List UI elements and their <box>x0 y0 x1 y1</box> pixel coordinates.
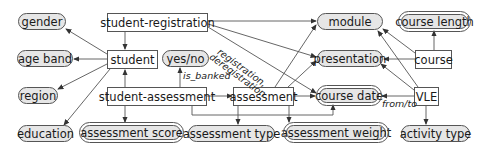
attribute-label: presentation <box>314 52 387 66</box>
attribute-label: course length <box>395 15 474 29</box>
entity-label: student-registration <box>100 16 214 30</box>
entity-label: VLE <box>416 90 438 104</box>
entity-label: student-assessment <box>99 90 215 104</box>
attribute-activity-type[interactable]: activity type <box>401 125 470 142</box>
edge-label-from-to: from/to <box>382 98 417 109</box>
attribute-label: age band <box>18 52 72 66</box>
entity-student[interactable]: student <box>107 50 158 69</box>
attribute-presentation[interactable]: presentation <box>317 50 383 67</box>
attribute-label: assessment type <box>183 127 281 141</box>
attribute-assessment-type[interactable]: assessment type <box>188 125 275 142</box>
attribute-label: activity type <box>400 127 472 141</box>
attribute-label: region <box>20 89 56 103</box>
attribute-label: education <box>17 127 74 141</box>
attribute-yes-no[interactable]: yes/no <box>162 50 209 67</box>
attribute-module[interactable]: module <box>317 13 383 30</box>
attribute-label: module <box>328 15 371 29</box>
attribute-age-band[interactable]: age band <box>17 50 73 67</box>
attribute-course-length[interactable]: course length <box>401 14 468 29</box>
attribute-region[interactable]: region <box>18 87 58 104</box>
entity-student-assessment[interactable]: student-assessment <box>107 87 207 106</box>
attribute-label: assessment weight <box>281 126 392 140</box>
entity-label: course <box>414 53 452 67</box>
attribute-assessment-score[interactable]: assessment score <box>82 125 181 140</box>
er-diagram: student-registration student student-ass… <box>0 0 487 152</box>
attribute-education[interactable]: education <box>18 125 73 142</box>
entity-label: student <box>111 53 155 67</box>
entity-vle[interactable]: VLE <box>414 87 439 106</box>
entity-course[interactable]: course <box>415 50 452 69</box>
attribute-label: course date <box>315 89 383 103</box>
attribute-course-date[interactable]: course date <box>319 88 379 103</box>
attribute-gender[interactable]: gender <box>18 13 66 30</box>
attribute-label: yes/no <box>166 52 204 66</box>
attribute-assessment-weight[interactable]: assessment weight <box>286 125 386 140</box>
attribute-label: assessment score <box>80 126 183 140</box>
entity-student-registration[interactable]: student-registration <box>107 13 208 32</box>
attribute-label: gender <box>22 15 63 29</box>
